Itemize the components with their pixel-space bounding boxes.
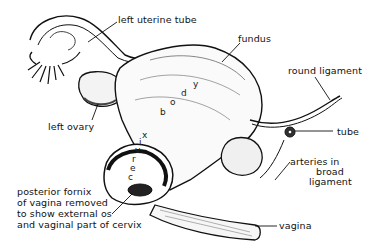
label-left-uterine-tube: left uterine tube <box>118 14 197 25</box>
vagina-shape <box>150 205 260 240</box>
anatomy-diagram: b o d y c e r v i x left uterine tube fu… <box>0 0 369 249</box>
cervix-letter: c <box>128 172 133 182</box>
body-letter: o <box>170 97 176 107</box>
cervix-letter: r <box>132 154 136 164</box>
label-left-ovary: left ovary <box>48 121 94 132</box>
label-arteries: ligament <box>309 176 352 187</box>
body-letter: b <box>160 107 166 117</box>
label-posterior-fornix: of vagina removed <box>17 197 108 208</box>
right-ovary-shape <box>221 138 262 176</box>
label-posterior-fornix: posterior fornix <box>17 186 91 197</box>
fimbriae-shape <box>28 52 80 84</box>
label-vagina: vagina <box>279 220 312 231</box>
body-letter: d <box>181 88 187 98</box>
label-fundus: fundus <box>238 33 271 44</box>
cervix-letter: e <box>130 163 136 173</box>
label-round-ligament: round ligament <box>288 65 362 76</box>
body-letter: y <box>193 79 198 89</box>
label-posterior-fornix: and vaginal part of cervix <box>17 219 142 230</box>
cervix-letter: x <box>142 130 147 140</box>
label-posterior-fornix: to show external os <box>17 208 112 219</box>
label-tube: tube <box>337 126 359 137</box>
